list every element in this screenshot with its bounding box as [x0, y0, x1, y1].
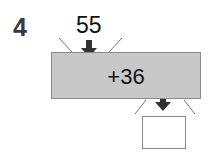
operation-box: +36 — [51, 52, 201, 99]
answer-box[interactable] — [142, 116, 186, 149]
operation-label: +36 — [52, 64, 200, 90]
